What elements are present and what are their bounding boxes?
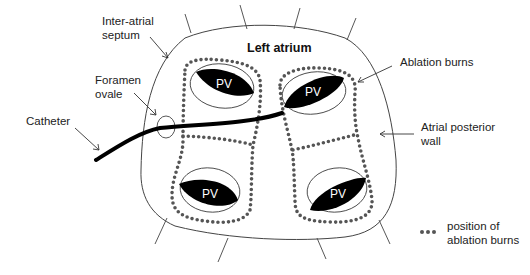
- label-catheter: Catheter: [26, 114, 70, 128]
- legend-text: position of ablation burns: [447, 219, 519, 247]
- label-ablation-burns: Ablation burns: [400, 55, 474, 69]
- pv-label-upper-left: PV: [216, 77, 232, 91]
- label-atrial-posterior-wall: Atrial posterior wall: [421, 120, 495, 148]
- atrium-outline: [141, 25, 396, 239]
- legend-dots-icon: [420, 230, 436, 234]
- label-inter-atrial-septum: Inter-atrial septum: [102, 14, 154, 42]
- label-foramen-ovale: Foramen ovale: [95, 73, 141, 101]
- pv-label-lower-right: PV: [330, 187, 346, 201]
- diagram-title: Left atrium: [247, 41, 312, 55]
- pv-label-lower-left: PV: [202, 187, 218, 201]
- pv-label-upper-right: PV: [305, 85, 321, 99]
